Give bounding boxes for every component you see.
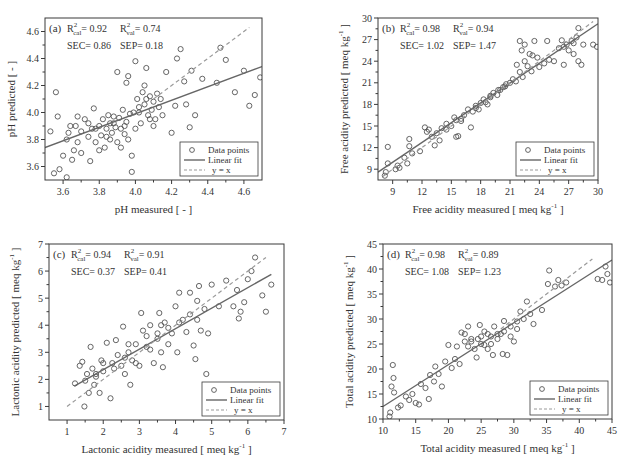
data-point-marker bbox=[99, 133, 104, 138]
data-point-marker bbox=[511, 339, 516, 344]
data-point-marker bbox=[187, 290, 192, 295]
data-point-marker bbox=[238, 309, 243, 314]
y-tick-label: 7 bbox=[38, 239, 43, 250]
data-point-marker bbox=[193, 113, 198, 118]
data-point-marker bbox=[195, 298, 200, 303]
x-axis-label-end: ] bbox=[557, 203, 563, 215]
data-point-marker bbox=[174, 56, 179, 61]
x-tick-label: 45 bbox=[607, 425, 617, 436]
sep-text: SEP= 1.47 bbox=[453, 40, 496, 51]
data-point-marker bbox=[263, 309, 268, 314]
data-point-marker bbox=[126, 137, 131, 142]
data-point-marker bbox=[84, 371, 89, 376]
x-tick-label: 4.4 bbox=[202, 186, 215, 197]
data-point-marker bbox=[109, 130, 114, 135]
r2-val-value: 0.74 bbox=[143, 23, 161, 34]
data-point-marker bbox=[71, 148, 76, 153]
data-point-marker bbox=[446, 342, 451, 347]
sep-label: SEP= bbox=[120, 40, 145, 51]
r2-val-text: R2val= 0.89 bbox=[458, 247, 498, 263]
data-point-marker bbox=[68, 123, 73, 128]
x-tick-label: 24 bbox=[534, 186, 544, 197]
data-point-marker bbox=[535, 55, 540, 60]
r2-val-text: R2val= 0.91 bbox=[124, 247, 164, 263]
r2-sub: cal bbox=[411, 255, 419, 263]
data-point-marker bbox=[155, 331, 160, 336]
data-point-marker bbox=[159, 350, 164, 355]
x-tick-label: 4 bbox=[173, 426, 178, 437]
data-point-marker bbox=[206, 331, 211, 336]
data-point-marker bbox=[88, 344, 93, 349]
y-tick-label: 10 bbox=[367, 414, 377, 425]
y-tick-label: 30 bbox=[367, 314, 377, 325]
data-point-marker bbox=[155, 91, 160, 96]
r2-val-eq: = bbox=[473, 249, 481, 260]
data-point-marker bbox=[97, 390, 102, 395]
data-point-marker bbox=[118, 126, 123, 131]
x-tick-label: 1 bbox=[65, 426, 70, 437]
x-tick-label: 21 bbox=[505, 186, 515, 197]
panel-c-lactonic-acidity: 12345671234567Lactonic acidity measured … bbox=[8, 239, 287, 456]
x-tick-label: 20 bbox=[443, 425, 453, 436]
data-point-marker bbox=[490, 352, 495, 357]
y-tick-label: 40 bbox=[367, 264, 377, 275]
data-point-marker bbox=[531, 321, 536, 326]
x-axis-label: Total acidity measured [ meq kg-1 ] bbox=[420, 441, 574, 454]
data-point-marker bbox=[474, 355, 479, 360]
data-point-marker bbox=[100, 117, 105, 122]
data-point-marker bbox=[128, 382, 133, 387]
y-axis-label-text: Total acidity predicted [ meq kg bbox=[343, 267, 355, 408]
y-axis-label: Lactonic acidity predicted [ meq kg-1 ] bbox=[8, 248, 21, 417]
data-point-marker bbox=[75, 114, 80, 119]
y-tick-label: 15 bbox=[367, 389, 377, 400]
r2-cal-eq: = bbox=[85, 249, 93, 260]
sec-value: 1.02 bbox=[426, 40, 444, 51]
r2-cal-value: 0.98 bbox=[427, 249, 445, 260]
data-point-marker bbox=[118, 145, 123, 150]
data-point-marker bbox=[492, 324, 497, 329]
data-point-marker bbox=[120, 107, 125, 112]
panel-label: (c) bbox=[53, 248, 66, 261]
data-point-marker bbox=[175, 350, 180, 355]
stats-annotation: (b)R2cal= 0.98R2val= 0.94SEC= 1.02SEP= 1… bbox=[382, 21, 496, 51]
legend-label-fit: Linear fit bbox=[558, 394, 592, 404]
data-point-marker bbox=[82, 404, 87, 409]
data-point-marker bbox=[164, 69, 169, 74]
y-axis-label-end: ] bbox=[9, 248, 21, 254]
r2-cal-value: 0.98 bbox=[422, 23, 440, 34]
data-point-marker bbox=[66, 130, 71, 135]
x-axis-label-text: Lactonic acidity measured [ meq kg bbox=[81, 443, 239, 455]
data-point-marker bbox=[121, 324, 126, 329]
data-point-marker bbox=[198, 328, 203, 333]
data-point-marker bbox=[53, 90, 58, 95]
data-point-marker bbox=[517, 69, 522, 74]
x-tick-label: 3 bbox=[137, 426, 142, 437]
data-point-marker bbox=[140, 328, 145, 333]
x-tick-label: 30 bbox=[509, 425, 519, 436]
x-tick-label: 9 bbox=[390, 186, 395, 197]
linear-fit-line bbox=[45, 67, 262, 148]
x-tick-label: 15 bbox=[411, 425, 421, 436]
data-point-marker bbox=[133, 361, 138, 366]
data-point-marker bbox=[416, 402, 421, 407]
data-point-marker bbox=[431, 379, 436, 384]
data-point-marker bbox=[576, 26, 581, 31]
data-point-marker bbox=[581, 42, 586, 47]
r2-sub: val bbox=[126, 29, 135, 37]
data-point-marker bbox=[122, 371, 127, 376]
legend-label-identity: y = x bbox=[234, 405, 253, 415]
y-tick-label: 2 bbox=[38, 374, 43, 385]
data-point-marker bbox=[147, 94, 152, 99]
y-tick-label: 1 bbox=[38, 401, 43, 412]
data-point-marker bbox=[522, 59, 527, 64]
data-point-marker bbox=[142, 83, 147, 88]
sec-text: SEC= 0.86 bbox=[67, 40, 111, 51]
x-tick-label: 5 bbox=[209, 426, 214, 437]
data-point-marker bbox=[389, 384, 394, 389]
data-point-marker bbox=[269, 282, 274, 287]
data-point-marker bbox=[184, 329, 189, 334]
r2-val-text: R2val= 0.94 bbox=[453, 21, 493, 37]
legend-label-points: Data points bbox=[230, 385, 272, 395]
data-point-marker bbox=[86, 390, 91, 395]
y-tick-label: 4.4 bbox=[27, 53, 40, 64]
